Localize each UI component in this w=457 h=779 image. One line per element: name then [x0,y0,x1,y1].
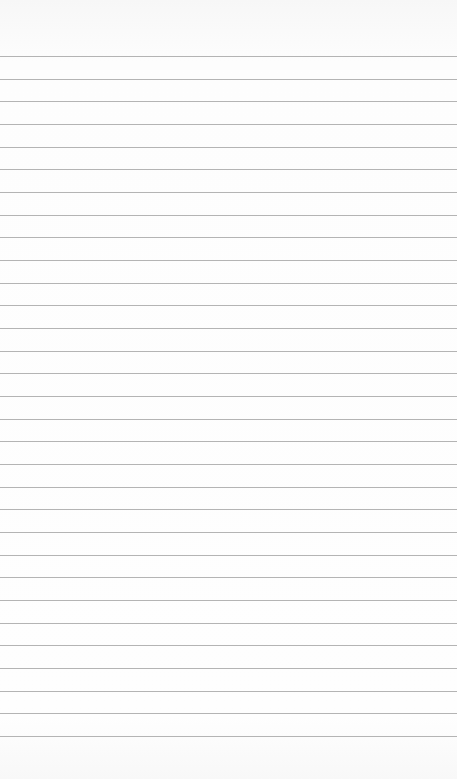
ruled-line [0,645,457,646]
ruled-line [0,668,457,669]
ruled-line [0,124,457,125]
ruled-line [0,509,457,510]
ruled-line [0,532,457,533]
ruled-line [0,577,457,578]
ruled-line [0,464,457,465]
lined-paper-sheet [0,0,457,779]
ruled-line [0,192,457,193]
ruled-line [0,419,457,420]
ruled-line [0,555,457,556]
ruled-line [0,736,457,737]
ruled-line [0,305,457,306]
ruled-line [0,215,457,216]
ruled-line [0,147,457,148]
ruled-line [0,623,457,624]
ruled-line [0,56,457,57]
ruled-line [0,79,457,80]
ruled-line [0,713,457,714]
ruled-line [0,351,457,352]
ruled-line [0,283,457,284]
ruled-line [0,487,457,488]
ruled-line [0,260,457,261]
ruled-line [0,396,457,397]
ruled-line [0,373,457,374]
ruled-line [0,328,457,329]
ruled-line [0,237,457,238]
ruled-line [0,169,457,170]
ruled-line [0,441,457,442]
ruled-line [0,691,457,692]
ruled-line [0,600,457,601]
ruled-line [0,101,457,102]
